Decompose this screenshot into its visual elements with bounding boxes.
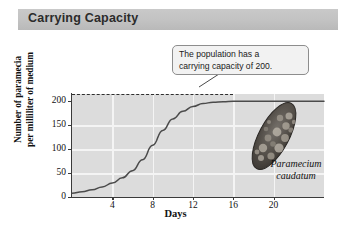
carrying-capacity-dashed-line bbox=[72, 94, 233, 95]
y-axis-title: Number of paramecia per milliliter of me… bbox=[13, 42, 36, 158]
x-axis-title: Days bbox=[0, 208, 351, 219]
specimen-genus: Paramecium bbox=[270, 158, 321, 169]
x-axis-line bbox=[71, 197, 324, 198]
y-tick-label: 0 bbox=[40, 191, 66, 201]
callout-line1: The population has a bbox=[179, 49, 259, 59]
y-axis-title-line1: Number of paramecia bbox=[13, 56, 23, 143]
y-tick-label: 100 bbox=[40, 143, 66, 153]
y-tick-mark bbox=[68, 197, 71, 198]
y-tick-mark bbox=[68, 173, 71, 174]
y-tick-mark bbox=[68, 149, 71, 150]
gridline-vertical bbox=[112, 94, 114, 197]
callout-box: The population has a carrying capacity o… bbox=[172, 45, 309, 75]
y-axis-line bbox=[71, 93, 72, 198]
callout-text: The population has a carrying capacity o… bbox=[179, 49, 303, 72]
y-tick-mark bbox=[68, 101, 71, 102]
figure-container: Carrying Capacity 48121620050100150200 N… bbox=[0, 0, 351, 227]
callout-leader-line bbox=[198, 74, 220, 87]
callout-line2: carrying capacity of 200. bbox=[179, 61, 272, 71]
y-tick-label: 200 bbox=[40, 95, 66, 105]
page-title: Carrying Capacity bbox=[28, 11, 138, 25]
gridline-vertical bbox=[193, 94, 195, 197]
specimen-caption: Paramecium caudatum bbox=[246, 158, 346, 182]
specimen-species: caudatum bbox=[246, 170, 346, 182]
y-tick-label: 50 bbox=[40, 167, 66, 177]
y-tick-label: 150 bbox=[40, 119, 66, 129]
gridline-vertical bbox=[153, 94, 155, 197]
y-tick-mark bbox=[68, 125, 71, 126]
y-axis-title-line2: per milliliter of medium bbox=[24, 42, 36, 158]
